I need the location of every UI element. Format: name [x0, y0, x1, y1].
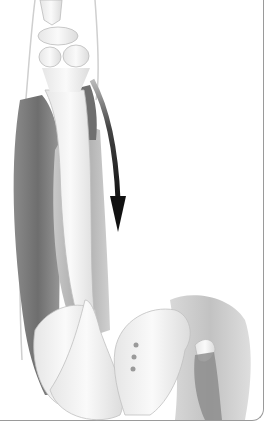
- arrow-head-icon: [110, 196, 126, 232]
- anatomy-illustration: [0, 0, 268, 425]
- knee-joint-icon: [38, 0, 90, 92]
